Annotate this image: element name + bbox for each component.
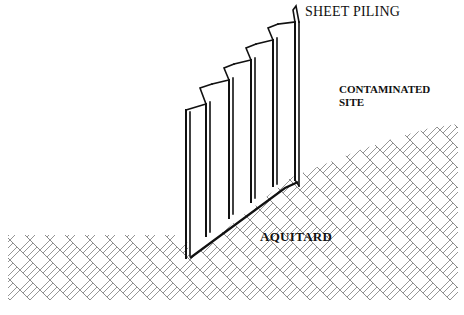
contaminated-site-label-line1: CONTAMINATED — [339, 83, 430, 96]
contaminated-site-label-line2: SITE — [339, 96, 430, 109]
aquitard-layer — [0, 0, 464, 315]
contaminated-site-label: CONTAMINATED SITE — [339, 83, 430, 109]
aquitard-label: AQUITARD — [260, 230, 332, 243]
diagram-svg — [0, 0, 464, 315]
sheet-piling-label: SHEET PILING — [305, 5, 400, 19]
diagram-canvas: SHEET PILING CONTAMINATED SITE AQUITARD — [0, 0, 464, 315]
